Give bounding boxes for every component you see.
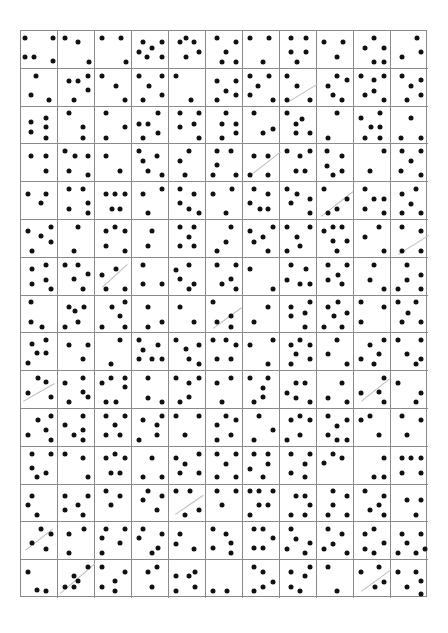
dot [372, 78, 377, 83]
dot [382, 475, 387, 480]
dot [67, 186, 72, 191]
dot [122, 413, 127, 418]
dot [182, 432, 187, 437]
grid-cell [206, 447, 243, 485]
grid-cell [95, 258, 132, 296]
dot [381, 59, 386, 64]
grid-cell [391, 144, 428, 182]
dot [109, 304, 114, 309]
dot [261, 131, 266, 136]
grid-cell [169, 69, 206, 107]
dot [67, 206, 72, 211]
dot [113, 191, 118, 196]
dot [414, 512, 419, 517]
dot [224, 338, 229, 343]
dot [326, 413, 331, 418]
grid-cell [243, 409, 280, 447]
grid-cell [391, 31, 428, 69]
dot [225, 589, 230, 594]
dot [229, 551, 234, 556]
dot [409, 159, 414, 164]
dot [183, 55, 188, 60]
dot [197, 362, 202, 367]
grid-cell [58, 296, 95, 334]
dot [35, 375, 40, 380]
dot [178, 125, 183, 130]
dot [118, 338, 123, 343]
dot [229, 432, 234, 437]
grid-cell [354, 371, 391, 409]
dot [219, 135, 224, 140]
grid-cell [206, 333, 243, 371]
dot [372, 59, 377, 64]
dot [99, 35, 104, 40]
dot [141, 498, 146, 503]
dot [210, 173, 215, 178]
grid-cell [169, 220, 206, 258]
dot [303, 168, 308, 173]
dot [382, 541, 387, 546]
grid-cell [391, 258, 428, 296]
dot [104, 111, 109, 116]
grid-cell [95, 560, 132, 598]
grid-cell [132, 144, 169, 182]
dot [72, 153, 77, 158]
dot [99, 324, 104, 329]
dot [118, 470, 123, 475]
dot [123, 229, 128, 234]
dot [345, 362, 350, 367]
dot [145, 121, 150, 126]
dot [266, 362, 271, 367]
grid-cell [169, 560, 206, 598]
dot [308, 282, 313, 287]
dot [340, 282, 345, 287]
dot [419, 272, 424, 277]
dot [62, 149, 67, 154]
dot [210, 338, 215, 343]
dot [303, 310, 308, 315]
dot [76, 578, 81, 583]
dot [114, 400, 119, 405]
dot [271, 224, 276, 229]
dot [44, 125, 49, 130]
dot [363, 531, 368, 536]
dot [48, 224, 53, 229]
grid-cell [132, 69, 169, 107]
dot [46, 97, 51, 102]
dot [266, 375, 271, 380]
dot [224, 88, 229, 93]
dot [330, 173, 335, 178]
dot [414, 186, 419, 191]
dot [86, 564, 91, 569]
dot [298, 432, 303, 437]
dot [44, 589, 49, 594]
dot [266, 191, 271, 196]
dot [44, 427, 49, 432]
dot [118, 493, 123, 498]
dot [67, 551, 72, 556]
dot [141, 418, 146, 423]
dot [326, 262, 331, 267]
dot [178, 470, 183, 475]
dot [35, 418, 40, 423]
dot [50, 59, 55, 64]
dot [187, 286, 192, 291]
dot [229, 324, 234, 329]
dot [372, 197, 377, 202]
grid-cell [317, 31, 354, 69]
dot [210, 589, 215, 594]
dot [367, 508, 372, 513]
dot [419, 49, 424, 54]
dot [294, 191, 299, 196]
dot [400, 320, 405, 325]
dot [229, 314, 234, 319]
grid-cell [243, 447, 280, 485]
dot [330, 238, 335, 243]
dot [271, 489, 276, 494]
dot [404, 277, 409, 282]
dot [326, 395, 331, 400]
dot [118, 35, 123, 40]
grid-cell [58, 333, 95, 371]
dot [252, 239, 257, 244]
dot [30, 451, 35, 456]
